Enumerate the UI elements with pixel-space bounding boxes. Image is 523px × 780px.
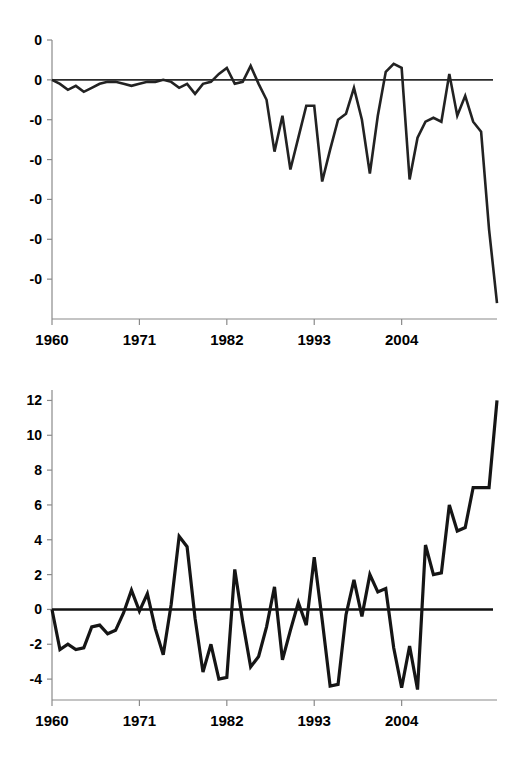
bottom-y-tick-labels: 121086420-2-4 bbox=[26, 392, 42, 687]
bottom-chart-plot bbox=[52, 400, 497, 689]
x-tick-label: 1971 bbox=[123, 331, 156, 348]
x-tick-label: 1982 bbox=[210, 712, 243, 729]
top-y-tick-group bbox=[47, 40, 52, 279]
top-chart-svg: 00-0-0-0-0-0 19601971198219932004 bbox=[0, 0, 523, 365]
bottom-x-tick-labels: 19601971198219932004 bbox=[35, 712, 419, 729]
y-tick-label: 12 bbox=[26, 392, 42, 408]
bottom-y-tick-group bbox=[47, 400, 52, 679]
top-y-tick-labels: 00-0-0-0-0-0 bbox=[30, 32, 43, 287]
y-tick-label: 4 bbox=[34, 532, 42, 548]
bottom-chart-axes bbox=[47, 390, 497, 706]
y-tick-label: 0 bbox=[34, 601, 42, 617]
y-tick-label: 8 bbox=[34, 462, 42, 478]
y-tick-label: -0 bbox=[30, 152, 43, 168]
y-tick-label: 10 bbox=[26, 427, 42, 443]
y-tick-label: -4 bbox=[30, 671, 43, 687]
y-tick-label: 0 bbox=[34, 32, 42, 48]
top-series-line bbox=[52, 64, 497, 303]
x-tick-label: 1971 bbox=[123, 712, 156, 729]
y-tick-label: 2 bbox=[34, 567, 42, 583]
x-tick-label: 1993 bbox=[298, 331, 331, 348]
y-tick-label: -0 bbox=[30, 191, 43, 207]
top-chart-plot bbox=[52, 64, 497, 303]
x-tick-label: 1982 bbox=[210, 331, 243, 348]
top-x-tick-group bbox=[52, 319, 402, 325]
y-tick-label: -2 bbox=[30, 636, 43, 652]
top-x-tick-labels: 19601971198219932004 bbox=[35, 331, 419, 348]
y-tick-label: -0 bbox=[30, 112, 43, 128]
x-tick-label: 2004 bbox=[385, 712, 419, 729]
chart-page: 00-0-0-0-0-0 19601971198219932004 121086… bbox=[0, 0, 523, 780]
y-tick-label: 0 bbox=[34, 72, 42, 88]
bottom-chart-panel: 121086420-2-4 19601971198219932004 bbox=[0, 370, 523, 780]
y-tick-label: -0 bbox=[30, 271, 43, 287]
top-chart-panel: 00-0-0-0-0-0 19601971198219932004 bbox=[0, 0, 523, 365]
x-tick-label: 2004 bbox=[385, 331, 419, 348]
x-tick-label: 1960 bbox=[35, 331, 68, 348]
y-tick-label: 6 bbox=[34, 497, 42, 513]
bottom-x-tick-group bbox=[52, 700, 402, 706]
bottom-series-line bbox=[52, 400, 497, 689]
bottom-chart-svg: 121086420-2-4 19601971198219932004 bbox=[0, 370, 523, 780]
y-tick-label: -0 bbox=[30, 231, 43, 247]
x-tick-label: 1993 bbox=[298, 712, 331, 729]
x-tick-label: 1960 bbox=[35, 712, 68, 729]
